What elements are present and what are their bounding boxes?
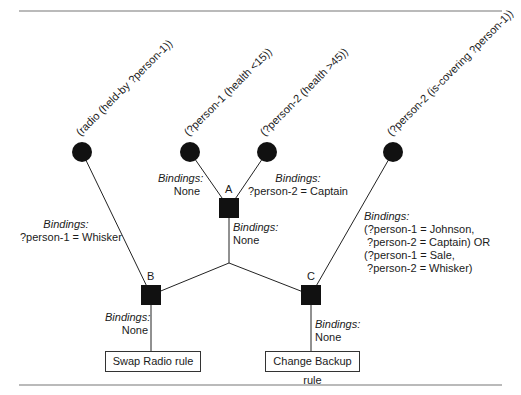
join-node-label-B: B [147,270,154,282]
join-node-B [141,285,161,305]
join-node-A [219,198,239,218]
bindings-A-junction: Bindings: None [233,221,278,247]
bindings-c1-B: Bindings: ?person-1 = Whisker [20,218,112,244]
condition-node-c2 [180,142,200,162]
edge-junction-C [229,263,311,295]
bindings-heading: Bindings: [158,172,203,184]
bindings-c3-A: Bindings: ?person-2 = Captain [248,172,348,198]
condition-node-c4 [383,142,403,162]
bindings-c4-C: Bindings: (?person-1 = Johnson, ?person-… [364,210,490,275]
rule-box-swap-radio: Swap Radio rule [105,351,201,372]
join-node-label-C: C [307,270,315,282]
bindings-C-rule: Bindings: None [315,318,360,344]
condition-node-c1 [72,142,92,162]
rule-box-change-backup: Change Backup rule [265,351,360,372]
bindings-c2-A: Bindings: None [158,172,200,198]
condition-node-c3 [257,142,277,162]
edge-junction-B [151,263,229,295]
join-node-label-A: A [225,183,232,195]
bindings-B-rule: Bindings: None [105,311,148,337]
join-node-C [301,285,321,305]
